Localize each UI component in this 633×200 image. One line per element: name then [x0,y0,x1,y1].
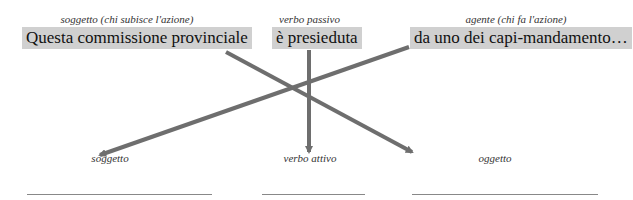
active-verb-caption: verbo attivo [270,152,350,164]
active-object-blank[interactable] [412,194,598,195]
passive-subject-caption: soggetto (chi subisce l'azione) [22,13,232,25]
active-subject-caption: soggetto [80,152,140,164]
passive-verb-caption: verbo passivo [262,13,357,25]
active-subject-blank[interactable] [27,194,212,195]
arrow-agent-to-subject [100,47,409,155]
passive-agent-caption: agente (chi fa l'azione) [410,13,622,25]
passive-subject-box: Questa commissione provinciale [22,27,252,49]
active-verb-blank[interactable] [262,194,365,195]
passive-verb-box: è presieduta [272,27,362,49]
passive-agent-box: da uno dei capi-mandamento… [410,27,632,49]
active-object-caption: oggetto [465,152,525,164]
